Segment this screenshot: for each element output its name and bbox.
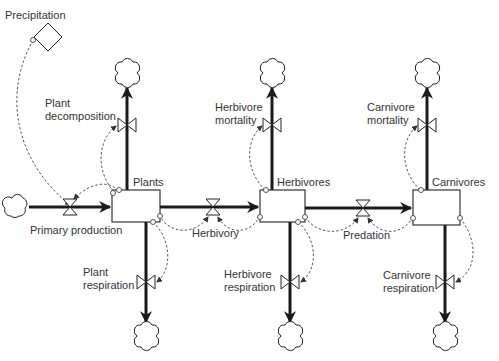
link-herbivores-to-mortality [250, 126, 265, 190]
link-plants-to-decomposition [101, 126, 116, 192]
label-herbivore-mortality-1: Herbivore [215, 101, 263, 113]
stock-carnivores[interactable]: Carnivores [413, 176, 486, 225]
stock-box [413, 190, 460, 225]
label-plant-respiration-2: respiration [83, 279, 134, 291]
stock-plants-label: Plants [133, 176, 164, 188]
stock-herbivores-label: Herbivores [277, 176, 331, 188]
label-herbivore-respiration-2: respiration [224, 281, 275, 293]
label-herbivory: Herbivory [192, 227, 240, 239]
label-herbivore-respiration-1: Herbivore [224, 268, 272, 280]
cloud-icon [260, 58, 285, 87]
stock-box [260, 190, 305, 222]
link-precipitation-to-primary-production [17, 40, 70, 205]
label-plant-decomposition-1: Plant [45, 97, 70, 109]
link-carnivores-to-respiration [456, 218, 473, 282]
label-herbivore-mortality-2: mortality [215, 114, 257, 126]
link-carnivores-to-mortality [405, 126, 420, 190]
cloud-icon [2, 194, 27, 217]
stock-plants[interactable]: Plants [112, 176, 164, 222]
cloud-icon [433, 321, 458, 350]
cloud-icon [278, 321, 303, 350]
link-port [31, 38, 36, 43]
label-predation: Predation [343, 229, 390, 241]
cloud-sink-plant-decomposition [115, 58, 140, 87]
cloud-icon [415, 58, 440, 87]
link-plants-to-respiration [153, 222, 168, 282]
label-plant-respiration-1: Plant [83, 266, 108, 278]
label-carnivore-mortality-2: mortality [367, 114, 409, 126]
cloud-sink-plant-respiration [134, 321, 159, 350]
cloud-sink-carnivore-respiration [433, 321, 458, 350]
cloud-sink-carnivore-mortality [415, 58, 440, 87]
stock-carnivores-label: Carnivores [432, 176, 486, 188]
stock-box [112, 190, 160, 222]
diamond-icon [34, 23, 62, 51]
stock-flow-diagram: Precipitation Plants [0, 0, 499, 361]
precipitation-converter[interactable]: Precipitation [5, 9, 66, 51]
label-plant-decomposition-2: decomposition [45, 110, 116, 122]
cloud-icon [134, 321, 159, 350]
label-primary-production: Primary production [30, 224, 122, 236]
label-carnivore-respiration-2: respiration [383, 282, 434, 294]
cloud-icon [115, 58, 140, 87]
precipitation-label: Precipitation [5, 9, 66, 21]
label-carnivore-mortality-1: Carnivore [367, 101, 415, 113]
cloud-sink-herbivore-mortality [260, 58, 285, 87]
link-herbivores-to-respiration [298, 222, 313, 282]
label-carnivore-respiration-1: Carnivore [383, 269, 431, 281]
cloud-sink-herbivore-respiration [278, 321, 303, 350]
cloud-source-primary-production [2, 194, 27, 217]
